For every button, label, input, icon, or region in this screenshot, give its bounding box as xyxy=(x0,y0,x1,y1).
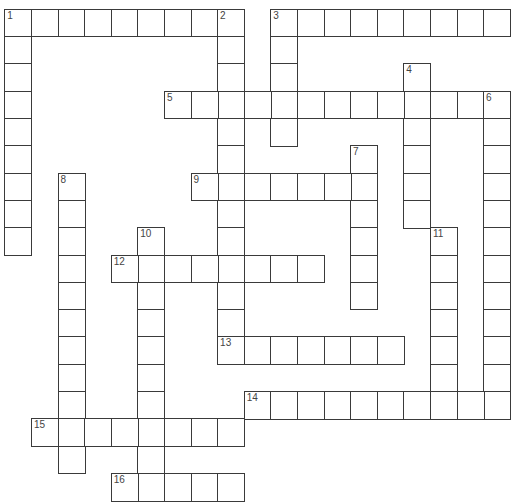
crossword-cell[interactable] xyxy=(350,391,378,420)
crossword-cell[interactable] xyxy=(297,9,325,38)
crossword-cell[interactable] xyxy=(483,200,511,229)
crossword-cell[interactable] xyxy=(244,173,272,202)
crossword-cell[interactable] xyxy=(244,336,272,365)
crossword-cell[interactable] xyxy=(483,173,511,202)
crossword-cell[interactable] xyxy=(483,227,511,256)
crossword-cell[interactable] xyxy=(403,391,431,420)
crossword-cell[interactable] xyxy=(137,391,165,420)
crossword-cell[interactable] xyxy=(58,9,86,38)
crossword-cell[interactable] xyxy=(58,227,86,256)
crossword-cell[interactable] xyxy=(324,91,352,120)
crossword-cell[interactable] xyxy=(244,91,272,120)
crossword-cell[interactable] xyxy=(270,91,298,120)
crossword-cell[interactable] xyxy=(483,391,511,420)
crossword-cell[interactable] xyxy=(58,364,86,393)
crossword-cell[interactable] xyxy=(270,118,298,147)
crossword-cell[interactable] xyxy=(350,282,378,311)
crossword-cell[interactable]: 2 xyxy=(217,9,245,38)
crossword-cell[interactable] xyxy=(164,9,192,38)
crossword-cell[interactable] xyxy=(403,173,431,202)
crossword-cell[interactable] xyxy=(350,255,378,284)
crossword-cell[interactable] xyxy=(4,91,32,120)
crossword-cell[interactable] xyxy=(217,282,245,311)
crossword-cell[interactable] xyxy=(137,473,165,502)
crossword-cell[interactable] xyxy=(324,173,352,202)
crossword-cell[interactable] xyxy=(403,200,431,229)
crossword-cell[interactable] xyxy=(297,336,325,365)
crossword-cell[interactable]: 9 xyxy=(191,173,219,202)
crossword-cell[interactable] xyxy=(137,446,165,475)
crossword-cell[interactable] xyxy=(217,145,245,174)
crossword-cell[interactable] xyxy=(84,418,112,447)
crossword-cell[interactable] xyxy=(270,63,298,92)
crossword-cell[interactable]: 11 xyxy=(430,227,458,256)
crossword-cell[interactable] xyxy=(244,255,272,284)
crossword-cell[interactable] xyxy=(483,282,511,311)
crossword-cell[interactable]: 15 xyxy=(31,418,59,447)
crossword-cell[interactable] xyxy=(111,9,139,38)
crossword-cell[interactable] xyxy=(164,255,192,284)
crossword-cell[interactable] xyxy=(4,63,32,92)
crossword-cell[interactable]: 8 xyxy=(58,173,86,202)
crossword-cell[interactable] xyxy=(270,391,298,420)
crossword-cell[interactable] xyxy=(270,173,298,202)
crossword-cell[interactable] xyxy=(111,418,139,447)
crossword-cell[interactable] xyxy=(403,91,431,120)
crossword-cell[interactable] xyxy=(217,173,245,202)
crossword-cell[interactable]: 3 xyxy=(270,9,298,38)
crossword-cell[interactable] xyxy=(58,336,86,365)
crossword-cell[interactable] xyxy=(350,9,378,38)
crossword-cell[interactable] xyxy=(324,336,352,365)
crossword-cell[interactable] xyxy=(403,145,431,174)
crossword-cell[interactable] xyxy=(31,9,59,38)
crossword-cell[interactable] xyxy=(137,418,165,447)
crossword-cell[interactable] xyxy=(377,336,405,365)
crossword-cell[interactable] xyxy=(217,63,245,92)
crossword-cell[interactable] xyxy=(297,173,325,202)
crossword-cell[interactable] xyxy=(191,255,219,284)
crossword-cell[interactable] xyxy=(164,473,192,502)
crossword-cell[interactable] xyxy=(164,418,192,447)
crossword-cell[interactable] xyxy=(483,145,511,174)
crossword-cell[interactable] xyxy=(430,9,458,38)
crossword-cell[interactable] xyxy=(270,336,298,365)
crossword-cell[interactable] xyxy=(483,309,511,338)
crossword-cell[interactable] xyxy=(217,200,245,229)
crossword-cell[interactable]: 1 xyxy=(4,9,32,38)
crossword-cell[interactable] xyxy=(137,9,165,38)
crossword-cell[interactable] xyxy=(217,36,245,65)
crossword-cell[interactable] xyxy=(137,255,165,284)
crossword-cell[interactable]: 14 xyxy=(244,391,272,420)
crossword-cell[interactable] xyxy=(483,118,511,147)
crossword-cell[interactable] xyxy=(58,309,86,338)
crossword-cell[interactable] xyxy=(58,446,86,475)
crossword-cell[interactable] xyxy=(191,473,219,502)
crossword-cell[interactable] xyxy=(191,91,219,120)
crossword-cell[interactable] xyxy=(430,91,458,120)
crossword-cell[interactable]: 5 xyxy=(164,91,192,120)
crossword-cell[interactable]: 12 xyxy=(111,255,139,284)
crossword-cell[interactable] xyxy=(483,255,511,284)
crossword-cell[interactable] xyxy=(217,91,245,120)
crossword-cell[interactable] xyxy=(191,9,219,38)
crossword-cell[interactable] xyxy=(58,282,86,311)
crossword-cell[interactable] xyxy=(350,200,378,229)
crossword-cell[interactable] xyxy=(191,418,219,447)
crossword-cell[interactable]: 10 xyxy=(137,227,165,256)
crossword-cell[interactable] xyxy=(217,473,245,502)
crossword-cell[interactable] xyxy=(350,336,378,365)
crossword-cell[interactable] xyxy=(4,36,32,65)
crossword-cell[interactable] xyxy=(350,173,378,202)
crossword-cell[interactable]: 16 xyxy=(111,473,139,502)
crossword-cell[interactable] xyxy=(137,336,165,365)
crossword-cell[interactable] xyxy=(483,336,511,365)
crossword-cell[interactable] xyxy=(324,391,352,420)
crossword-cell[interactable] xyxy=(270,255,298,284)
crossword-cell[interactable] xyxy=(58,391,86,420)
crossword-cell[interactable] xyxy=(84,9,112,38)
crossword-cell[interactable] xyxy=(270,36,298,65)
crossword-cell[interactable] xyxy=(377,91,405,120)
crossword-cell[interactable] xyxy=(217,227,245,256)
crossword-cell[interactable] xyxy=(297,255,325,284)
crossword-cell[interactable] xyxy=(4,145,32,174)
